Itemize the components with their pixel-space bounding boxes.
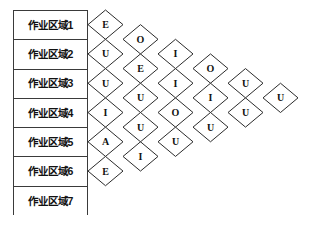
- area-label-text: 作业区域5: [28, 137, 74, 148]
- relationship-rating: U: [137, 122, 144, 133]
- relationship-rating: U: [172, 136, 179, 147]
- grid-line: [176, 54, 194, 69]
- area-label-row: 作业区域6: [14, 157, 87, 186]
- area-label-row: 作业区域7: [14, 187, 87, 216]
- relationship-rating: I: [104, 107, 108, 118]
- relationship-rating: I: [209, 92, 213, 103]
- grid-line: [106, 113, 124, 128]
- relationship-rating: O: [137, 34, 145, 45]
- grid-line: [176, 39, 194, 54]
- relationship-rating: U: [242, 107, 249, 118]
- relationship-rating: I: [139, 151, 143, 162]
- relationship-rating: E: [137, 63, 144, 74]
- relationship-rating: U: [277, 92, 284, 103]
- area-label-row: 作业区域4: [14, 99, 87, 128]
- relationship-rating: U: [137, 92, 144, 103]
- grid-line: [211, 83, 229, 98]
- relationship-rating: I: [174, 48, 178, 59]
- area-label-text: 作业区域4: [28, 108, 74, 119]
- area-label-row: 作业区域3: [14, 70, 87, 99]
- grid-line: [141, 142, 159, 157]
- grid-lines: [88, 10, 298, 186]
- area-label-text: 作业区域7: [28, 196, 74, 207]
- relationship-rating: U: [102, 78, 109, 89]
- relationship-rating: E: [102, 166, 109, 177]
- area-label-text: 作业区域2: [28, 49, 74, 60]
- grid-line: [176, 69, 194, 84]
- area-label-text: 作业区域6: [28, 166, 74, 177]
- area-label-column: 作业区域1 作业区域2 作业区域3 作业区域4 作业区域5 作业区域6 作业区域…: [13, 10, 88, 215]
- relationship-rating: I: [174, 78, 178, 89]
- grid-line: [211, 98, 229, 113]
- grid-line: [141, 156, 159, 171]
- grid-line: [176, 83, 194, 98]
- relationship-rating: U: [102, 48, 109, 59]
- area-label-row: 作业区域1: [14, 11, 87, 40]
- area-label-text: 作业区域1: [28, 20, 74, 31]
- relationship-rating: E: [102, 19, 109, 30]
- rel-chart-figure: 作业区域1 作业区域2 作业区域3 作业区域4 作业区域5 作业区域6 作业区域…: [0, 0, 318, 233]
- area-label-row: 作业区域5: [14, 128, 87, 157]
- area-label-text: 作业区域3: [28, 78, 74, 89]
- relationship-rating: O: [172, 107, 180, 118]
- area-label-row: 作业区域2: [14, 40, 87, 69]
- relationship-rating: U: [242, 78, 249, 89]
- grid-line: [106, 98, 124, 113]
- relationship-rating: O: [207, 63, 215, 74]
- relationship-rating: A: [102, 136, 110, 147]
- relationship-rating: U: [207, 122, 214, 133]
